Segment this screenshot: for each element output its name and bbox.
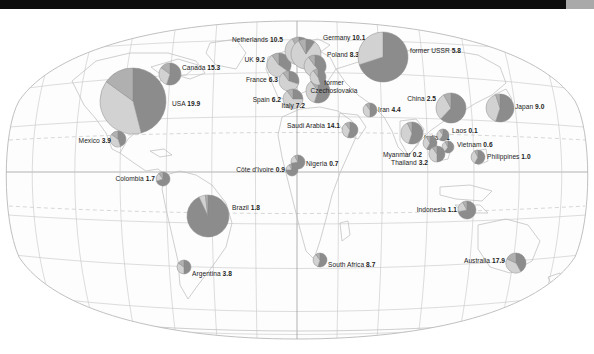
label-value-france: 6.3: [269, 76, 278, 83]
label-country-former-czechoslovakia: former Czechoslovakia: [311, 79, 358, 94]
pie-marker-iran: [362, 102, 378, 118]
map-label-thailand: Thailand 3.2: [391, 160, 428, 167]
pie-marker-japan: [485, 93, 515, 123]
label-country-poland: Poland: [327, 51, 348, 58]
label-value-spain: 6.2: [272, 96, 281, 103]
map-label-south-africa: South Africa 8.7: [328, 262, 375, 269]
label-country-italy: Italy: [281, 102, 293, 109]
label-country-laos: Laos: [452, 127, 467, 134]
map-label-argentina: Argentina 3.8: [192, 271, 232, 278]
map-label-italy: Italy 7.2: [281, 103, 305, 110]
label-value-indonesia: 1.1: [448, 206, 457, 213]
map-label-philippines: Philippines 1.0: [487, 154, 531, 161]
label-country-south-africa: South Africa: [328, 261, 364, 268]
label-value-saudi-arabia: 14.1: [327, 122, 340, 129]
pie-marker-south-africa: [312, 252, 328, 268]
pie-marker-mexico: [109, 130, 127, 148]
label-value-italy: 7.2: [296, 102, 305, 109]
map-label-indonesia: Indonesia 1.1: [417, 207, 457, 214]
map-label-laos: Laos 0.1: [452, 128, 478, 135]
label-value-nigeria: 0.7: [329, 160, 338, 167]
pie-marker-nigeria: [290, 154, 306, 170]
map-label-france: France 6.3: [246, 77, 278, 84]
map-label-nigeria: Nigeria 0.7: [306, 161, 338, 168]
map-label-china: China 2.5: [407, 96, 436, 103]
label-country-japan: Japan: [515, 103, 533, 110]
label-country-netherlands: Netherlands: [232, 36, 268, 43]
page-edge-bar: [0, 0, 594, 9]
label-country-saudi-arabia: Saudi Arabia: [287, 122, 325, 129]
pie-marker-brazil: [186, 194, 230, 238]
map-label-australia: Australia 17.9: [464, 258, 505, 265]
map-label-myanmar: Myanmar 0.2: [383, 152, 422, 159]
screenshot-root: USA 19.9Canada 15.3Mexico 3.9Colombia 1.…: [0, 0, 594, 354]
map-label-vietnam: Vietnam 0.6: [457, 142, 493, 149]
pie-marker-indonesia: [457, 200, 477, 220]
label-value-mexico: 3.9: [102, 137, 111, 144]
map-label-brazil: Brazil 1.8: [232, 205, 260, 212]
label-country-china: China: [407, 95, 424, 102]
map-label-former-ussr: former USSR 5.8: [410, 48, 461, 55]
label-country-spain: Spain: [253, 96, 270, 103]
pie-marker-layer: USA 19.9Canada 15.3Mexico 3.9Colombia 1.…: [0, 9, 594, 354]
label-value-laos: 0.1: [468, 127, 477, 134]
pie-marker-canada: [158, 62, 182, 86]
label-country-france: France: [246, 76, 267, 83]
page-corner-tab: [566, 0, 594, 9]
label-value-china: 2.5: [427, 95, 436, 102]
label-value-canada: 15.3: [207, 64, 220, 71]
label-country-former-ussr: former USSR: [410, 47, 450, 54]
label-value-colombia: 1.7: [146, 175, 155, 182]
map-label-poland: Poland 8.3: [327, 52, 359, 59]
map-label-japan: Japan 9.0: [515, 104, 544, 111]
label-country-canada: Canada: [182, 64, 205, 71]
label-country-germany: Germany: [323, 34, 350, 41]
label-value-argentina: 3.8: [223, 270, 232, 277]
label-country-philippines: Philippines: [487, 153, 519, 160]
map-label-netherlands: Netherlands 10.5: [232, 37, 283, 44]
map-label-uk: UK 9.2: [245, 57, 265, 64]
map-label-mexico: Mexico 3.9: [79, 138, 111, 145]
label-country-nigeria: Nigeria: [306, 160, 327, 167]
label-country-brazil: Brazil: [232, 204, 249, 211]
map-label-usa: USA 19.9: [172, 101, 200, 108]
label-value-philippines: 1.0: [521, 153, 530, 160]
label-value-south-africa: 8.7: [366, 261, 375, 268]
label-country-colombia: Colombia: [116, 175, 144, 182]
label-country-myanmar: Myanmar: [383, 151, 411, 158]
pie-marker-philippines: [470, 149, 486, 165]
pie-marker-saudi-arabia: [341, 121, 359, 139]
label-value-c-te-d-ivoire: 0.9: [276, 166, 285, 173]
label-country-usa: USA: [172, 100, 185, 107]
label-value-vietnam: 0.6: [483, 141, 492, 148]
map-label-former-czechoslovakia: former Czechoslovakia: [306, 79, 362, 94]
label-value-uk: 9.2: [256, 56, 265, 63]
label-country-mexico: Mexico: [79, 137, 100, 144]
pie-marker-china: [435, 92, 467, 124]
label-value-iran: 4.4: [391, 106, 400, 113]
label-country-c-te-d-ivoire: Côte d'Ivoire: [236, 166, 273, 173]
label-country-thailand: Thailand: [391, 159, 417, 166]
map-label-spain: Spain 6.2: [253, 97, 281, 104]
label-value-brazil: 1.8: [251, 204, 260, 211]
pie-marker-thailand: [428, 145, 446, 163]
map-label-iran: Iran 4.4: [378, 107, 401, 114]
pie-marker-former-ussr: [357, 31, 409, 83]
pie-marker-usa: [99, 67, 167, 135]
label-country-argentina: Argentina: [192, 270, 221, 277]
map-label-saudi-arabia: Saudi Arabia 14.1: [287, 123, 340, 130]
label-value-netherlands: 10.5: [270, 36, 283, 43]
pie-marker-australia: [505, 252, 527, 274]
map-label-colombia: Colombia 1.7: [116, 176, 155, 183]
label-value-australia: 17.9: [492, 257, 505, 264]
label-value-thailand: 3.2: [419, 159, 428, 166]
map-label-c-te-d-ivoire: Côte d'Ivoire 0.9: [236, 167, 285, 174]
label-value-former-ussr: 5.8: [452, 47, 461, 54]
label-value-japan: 9.0: [535, 103, 544, 110]
label-value-usa: 19.9: [187, 100, 200, 107]
label-value-myanmar: 0.2: [413, 151, 422, 158]
label-country-vietnam: Vietnam: [457, 141, 481, 148]
pie-marker-colombia: [155, 171, 171, 187]
label-country-iran: Iran: [378, 106, 390, 113]
map-label-canada: Canada 15.3: [182, 65, 220, 72]
